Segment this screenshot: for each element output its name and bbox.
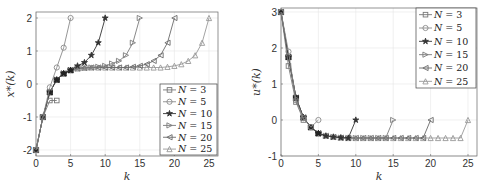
star-marker-icon	[95, 40, 101, 46]
x-tick-label: 5	[68, 158, 74, 169]
legend-label: N = 20	[433, 62, 468, 73]
control-input-plot: 0510152025-10123ku*(k)N = 3N = 5N = 10N …	[250, 7, 477, 184]
y-tick-label: 2	[26, 13, 32, 24]
x-tick-label: 15	[134, 158, 146, 169]
y-tick-label: 1	[26, 46, 32, 57]
y-tick-label: 0	[271, 115, 277, 126]
x-tick-label: 0	[278, 158, 284, 169]
state-trajectory-plot: 0510152025-2-1012kx*(k)N = 3N = 5N = 10N…	[4, 12, 218, 183]
y-tick-label: 3	[271, 7, 277, 18]
x-tick-label: 20	[169, 158, 181, 169]
x-tick-label: 25	[462, 158, 474, 169]
legend: N = 3N = 5N = 10N = 15N = 20N = 25	[160, 84, 217, 155]
y-tick-label: -1	[23, 112, 32, 123]
x-axis-label: k	[124, 170, 131, 183]
legend-label: N = 10	[433, 36, 468, 47]
x-tick-label: 5	[316, 158, 322, 169]
x-tick-label: 20	[425, 158, 437, 169]
legend-label: N = 3	[177, 84, 206, 95]
legend-label: N = 15	[433, 49, 468, 60]
star-marker-icon	[353, 117, 359, 123]
x-tick-label: 15	[388, 158, 400, 169]
y-tick-label: 2	[271, 43, 277, 54]
x-tick-label: 10	[350, 158, 362, 169]
x-tick-label: 0	[33, 158, 39, 169]
star-marker-icon	[102, 15, 108, 21]
legend-label: N = 5	[433, 22, 462, 33]
legend-label: N = 5	[177, 96, 206, 107]
series-n3	[279, 10, 306, 123]
legend-label: N = 15	[177, 120, 212, 131]
series-n3	[34, 98, 59, 152]
y-axis-label: u*(k)	[250, 68, 263, 96]
legend-label: N = 25	[177, 143, 212, 154]
y-tick-label: -2	[23, 145, 32, 156]
y-tick-label: 0	[26, 79, 32, 90]
y-tick-label: -1	[268, 151, 277, 162]
legend-label: N = 25	[433, 76, 468, 87]
x-tick-label: 10	[100, 158, 112, 169]
legend-label: N = 20	[177, 132, 212, 143]
series-n15	[278, 9, 395, 140]
legend-label: N = 10	[177, 108, 212, 119]
x-axis-label: k	[376, 170, 383, 183]
figure: 0510152025-2-1012kx*(k)N = 3N = 5N = 10N…	[0, 0, 490, 187]
y-tick-label: 1	[271, 79, 277, 90]
legend-label: N = 3	[433, 9, 462, 20]
x-tick-label: 25	[203, 158, 215, 169]
y-axis-label: x*(k)	[4, 71, 17, 98]
legend: N = 3N = 5N = 10N = 15N = 20N = 25	[416, 8, 476, 88]
